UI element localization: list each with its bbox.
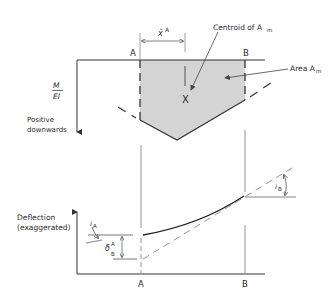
mei-label-numerator: M <box>53 81 60 90</box>
slope-b-arc-arrow <box>284 175 286 195</box>
centroid-label-sub: m <box>267 27 272 33</box>
centroid-marker: X <box>182 94 189 105</box>
deflection-curve <box>143 196 244 235</box>
deflection-label-line1: Deflection <box>17 213 55 222</box>
xbar-sup: A <box>165 26 170 33</box>
slope-b-sub: B <box>278 186 282 192</box>
area-label-sub: m <box>316 68 321 74</box>
moment-curve-ext-left <box>118 107 136 118</box>
area-label: Area A <box>290 64 316 73</box>
tangent-at-b-dashed <box>143 168 292 259</box>
slope-a-sub: A <box>93 223 97 229</box>
point-a-label-top: A <box>130 48 136 58</box>
centroid-label: Centroid of A <box>213 23 263 32</box>
bending-moment-diagram: X A B x̄ A Centroid of A m Area A m M EI… <box>27 23 321 140</box>
moment-curve-ext-right <box>250 80 275 97</box>
positive-downwards-line2: downwards <box>27 126 67 134</box>
point-a-label-bottom: A <box>138 279 144 289</box>
slope-a-tangent <box>86 240 102 243</box>
deflection-diagram: Deflection (exaggerated) i A δ A B i B A… <box>17 168 296 289</box>
delta-sup: A <box>111 241 115 247</box>
delta-label: δ <box>105 244 110 253</box>
delta-sub: B <box>111 251 115 257</box>
slope-a-label: i <box>90 220 92 228</box>
moment-area-diagram: X A B x̄ A Centroid of A m Area A m M EI… <box>0 0 336 299</box>
xbar-label: x̄ <box>157 29 163 38</box>
deflection-label-line2: (exaggerated) <box>17 223 71 232</box>
point-b-label-top: B <box>243 48 249 58</box>
point-b-label-bottom: B <box>242 279 248 289</box>
positive-downwards-line1: Positive <box>27 116 54 124</box>
mei-label-denominator: EI <box>53 92 61 101</box>
slope-b-label: i <box>275 183 277 191</box>
